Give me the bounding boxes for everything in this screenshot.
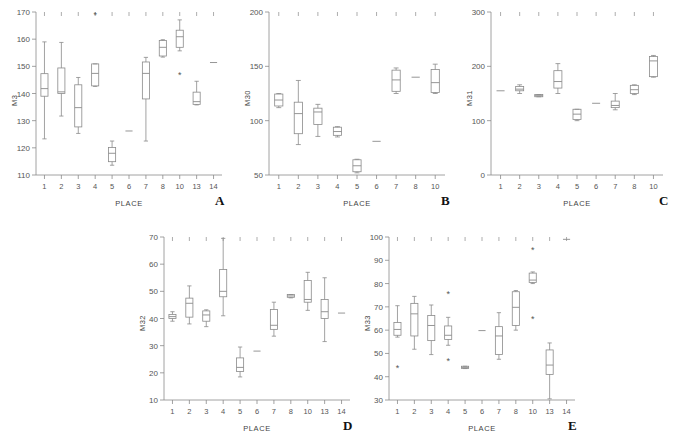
x-tick-label: 10 [649, 182, 657, 191]
box-whisker: ** [529, 245, 536, 324]
panel-letter-b: B [441, 193, 450, 209]
box-iqr [237, 358, 244, 372]
box-iqr [294, 102, 302, 134]
x-tick-label: 8 [514, 407, 518, 416]
box-iqr [321, 299, 328, 318]
y-tick-label: 50 [254, 171, 263, 180]
box-iqr [75, 85, 82, 127]
y-tick-label: 100 [472, 117, 486, 126]
x-tick-label: 1 [170, 407, 174, 416]
x-tick-label: 10 [431, 182, 439, 191]
box-whisker [630, 85, 638, 95]
y-tick-label: 70 [149, 233, 158, 242]
y-tick-label: 60 [149, 260, 158, 269]
box-whisker [203, 310, 210, 327]
box-whisker [220, 238, 227, 315]
x-tick-label: 13 [320, 407, 328, 416]
x-tick-label: 4 [335, 182, 339, 191]
panel-e: 3040506070809010012345678101314*****PLAC… [353, 229, 585, 444]
box-whisker [159, 40, 166, 57]
box-whisker [411, 296, 418, 349]
x-tick-label: 6 [480, 407, 484, 416]
y-tick-label: 40 [374, 373, 383, 382]
x-tick-label: 2 [296, 182, 300, 191]
y-tick-label: 40 [149, 315, 158, 324]
panel-c: 01002003001234567810PLACEM31 [455, 4, 673, 219]
y-tick-label: 50 [149, 287, 158, 296]
box-iqr [529, 273, 536, 282]
box-iqr [411, 303, 418, 336]
box-whisker [193, 81, 200, 105]
y-tick-label: 200 [250, 8, 264, 17]
box-whisker [353, 159, 361, 173]
box-iqr [109, 148, 116, 162]
x-axis-title: PLACE [491, 199, 663, 208]
box-whisker [333, 127, 341, 137]
box-iqr [394, 322, 401, 335]
box-iqr [445, 326, 452, 340]
x-tick-label: 5 [238, 407, 242, 416]
box-iqr [142, 62, 149, 99]
y-tick-label: 150 [17, 62, 31, 71]
box-whisker [142, 57, 149, 141]
y-tick-label: 80 [374, 280, 383, 289]
x-tick-label: 7 [144, 182, 148, 191]
box-iqr [304, 280, 311, 302]
box-iqr [428, 315, 435, 340]
x-tick-label: 14 [562, 407, 570, 416]
y-axis-title: M31 [465, 90, 474, 106]
x-tick-label: 7 [613, 182, 617, 191]
panel-letter-d: D [343, 418, 352, 434]
y-tick-label: 110 [17, 171, 30, 180]
y-axis-title: M32 [138, 315, 147, 331]
box-iqr [270, 310, 277, 330]
outlier-marker: * [446, 289, 450, 299]
outlier-marker: * [178, 70, 182, 80]
x-tick-label: 5 [110, 182, 114, 191]
y-tick-label: 100 [370, 233, 384, 242]
box-whisker [58, 42, 65, 116]
x-tick-label: 1 [42, 182, 46, 191]
box-whisker [304, 272, 311, 310]
y-tick-label: 130 [17, 117, 31, 126]
x-tick-label: 1 [277, 182, 281, 191]
outlier-marker: * [446, 356, 450, 366]
x-tick-label: 8 [414, 182, 418, 191]
x-axis-title: PLACE [389, 424, 575, 433]
x-tick-label: 2 [412, 407, 416, 416]
box-iqr [193, 92, 200, 104]
box-iqr [203, 311, 210, 321]
box-whisker [573, 109, 581, 120]
box-whisker [392, 68, 400, 94]
y-tick-label: 150 [250, 62, 264, 71]
box-iqr [495, 327, 502, 355]
y-tick-label: 30 [374, 396, 383, 405]
box-whisker [546, 343, 553, 399]
box-whisker [169, 312, 176, 322]
x-tick-label: 1 [498, 182, 502, 191]
x-tick-label: 4 [221, 407, 225, 416]
x-tick-label: 4 [446, 407, 450, 416]
y-tick-label: 90 [374, 256, 383, 265]
x-tick-label: 8 [289, 407, 293, 416]
x-tick-label: 2 [187, 407, 191, 416]
box-whisker [237, 347, 244, 377]
outlier-marker: * [531, 245, 535, 255]
y-tick-label: 300 [472, 8, 486, 17]
x-tick-label: 4 [93, 182, 97, 191]
box-whisker [321, 278, 328, 342]
box-whisker [109, 141, 116, 165]
y-tick-label: 30 [149, 342, 158, 351]
y-tick-label: 50 [374, 349, 383, 358]
outlier-marker: * [531, 314, 535, 324]
box-whisker [516, 85, 524, 94]
y-tick-label: 20 [149, 369, 158, 378]
box-whisker: * [92, 10, 99, 87]
box-iqr [516, 86, 524, 90]
panel-letter-e: E [568, 418, 577, 434]
x-tick-label: 10 [176, 182, 184, 191]
x-tick-label: 5 [355, 182, 359, 191]
y-tick-label: 200 [472, 62, 486, 71]
x-axis-title: PLACE [36, 199, 222, 208]
y-axis-title: M33 [363, 315, 372, 331]
